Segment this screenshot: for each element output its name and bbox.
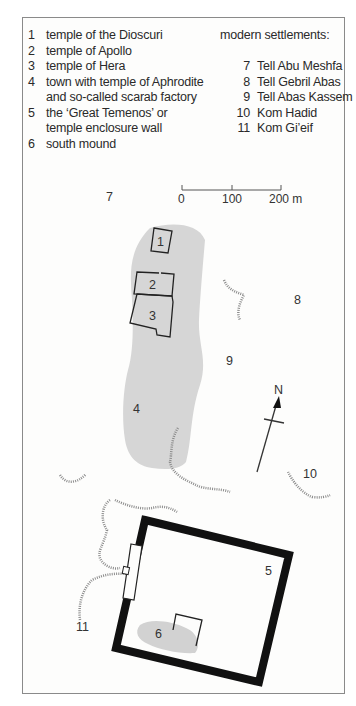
- map-label-4: 4: [133, 402, 140, 416]
- great-temenos-wall: [116, 520, 289, 682]
- map-label-8: 8: [294, 293, 301, 307]
- map-label-2: 2: [149, 278, 156, 292]
- mound-town-area: [123, 224, 205, 469]
- map-label-6: 6: [155, 627, 162, 641]
- map-label-9: 9: [226, 354, 233, 368]
- map-label-5: 5: [265, 564, 272, 578]
- scale-tick-100: 100: [222, 192, 242, 206]
- scale-tick-200: 200 m: [269, 192, 302, 206]
- scale-tick-0: 0: [178, 192, 185, 206]
- scale-bar: [182, 185, 281, 190]
- map-label-11: 11: [76, 620, 89, 634]
- map-label-10: 10: [303, 467, 317, 481]
- temenos-gate-buttress: [122, 566, 129, 574]
- north-label: N: [274, 383, 283, 397]
- map-label-1: 1: [157, 235, 164, 249]
- map-label-3: 3: [149, 309, 156, 323]
- map-label-7: 7: [106, 190, 113, 204]
- south-mound: [137, 621, 198, 653]
- north-arrow: [257, 396, 284, 472]
- site-map: 0 100 200 m N 1 2 3 4 5 6 7 8 9 10 11: [0, 0, 356, 706]
